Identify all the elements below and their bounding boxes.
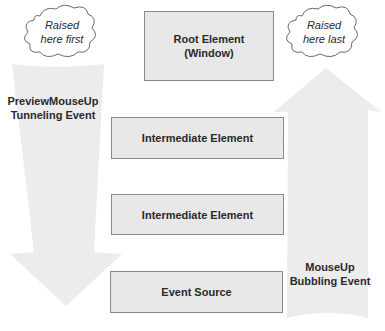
routed-event-diagram: Raised here first Raised here last Previ…: [0, 0, 385, 331]
tunneling-event-name: PreviewMouseUp: [0, 94, 106, 108]
intermediate-element-box-1: Intermediate Element: [111, 117, 284, 159]
event-source-box: Event Source: [110, 271, 283, 313]
callout-raised-first: Raised here first: [30, 18, 94, 46]
bubbling-event-type: Bubbling Event: [288, 274, 372, 288]
tunneling-event-type: Tunneling Event: [0, 108, 106, 122]
bubbling-event-name: MouseUp: [288, 260, 372, 274]
callout-last-line2: here last: [292, 32, 356, 46]
root-element-box: Root Element (Window): [144, 11, 274, 81]
intermediate-element-box-2: Intermediate Element: [111, 194, 284, 235]
callout-first-line2: here first: [30, 32, 94, 46]
root-element-sublabel: (Window): [174, 46, 245, 60]
intermediate-element-label-1: Intermediate Element: [142, 131, 253, 145]
callout-raised-last: Raised here last: [292, 18, 356, 46]
root-element-label: Root Element: [174, 32, 245, 46]
event-source-label: Event Source: [161, 285, 231, 299]
tunneling-event-label: PreviewMouseUp Tunneling Event: [0, 94, 106, 122]
intermediate-element-label-2: Intermediate Element: [142, 208, 253, 222]
callout-first-line1: Raised: [30, 18, 94, 32]
callout-last-line1: Raised: [292, 18, 356, 32]
bubbling-event-label: MouseUp Bubbling Event: [288, 260, 372, 288]
